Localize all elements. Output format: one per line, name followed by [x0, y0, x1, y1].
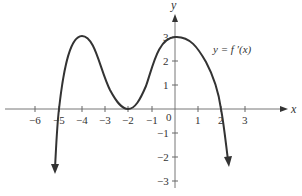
curve-left-arrow-icon	[51, 164, 59, 174]
x-tick-label: −2	[122, 114, 134, 126]
x-axis: x −6 −5 −4 −3 −2 −1 0 1 2 3	[5, 102, 297, 126]
y-tick-label: −3	[157, 175, 169, 187]
x-axis-label: x	[290, 102, 297, 116]
y-axis: y 3 2 1 −1 −2 −3	[157, 0, 178, 188]
y-axis-arrow-icon	[172, 14, 178, 22]
x-tick-label: −4	[76, 114, 88, 126]
derivative-curve	[55, 36, 228, 168]
y-tick-label: 1	[163, 79, 169, 91]
x-tick-label: 3	[242, 114, 248, 126]
x-tick-label: −3	[99, 114, 111, 126]
curve-right-arrow-icon	[224, 156, 232, 167]
curve-label: y = f ′(x)	[212, 43, 252, 56]
x-tick-label: 0	[166, 111, 172, 123]
y-tick-label: −1	[157, 127, 169, 139]
y-tick-label: −2	[157, 151, 169, 163]
chart-container: x −6 −5 −4 −3 −2 −1 0 1 2 3	[0, 0, 302, 196]
y-tick-label: 2	[163, 55, 169, 67]
x-axis-arrow-icon	[280, 106, 288, 112]
x-tick-label: −1	[146, 114, 158, 126]
x-tick-label: −6	[29, 114, 41, 126]
x-tick-label: 1	[195, 114, 201, 126]
y-axis-label: y	[170, 0, 177, 12]
chart-svg: x −6 −5 −4 −3 −2 −1 0 1 2 3	[0, 0, 302, 196]
